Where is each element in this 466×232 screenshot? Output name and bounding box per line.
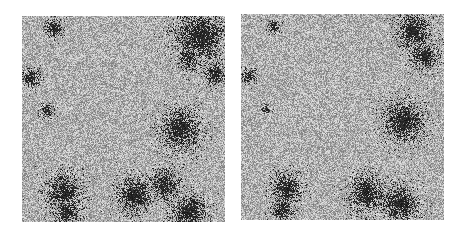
particle-field bbox=[241, 14, 444, 220]
simulation-panel-left bbox=[22, 16, 225, 222]
particle-field bbox=[22, 16, 225, 222]
simulation-panel-right bbox=[241, 14, 444, 220]
